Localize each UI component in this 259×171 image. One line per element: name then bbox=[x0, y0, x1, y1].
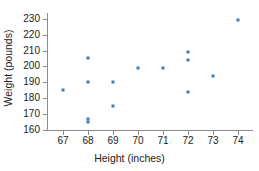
y-tick bbox=[43, 98, 47, 99]
data-point bbox=[87, 121, 90, 124]
data-point bbox=[87, 81, 90, 84]
scatter-plot-figure: 160170180190200210220230 676869707172737… bbox=[0, 0, 259, 171]
x-tick-label: 71 bbox=[152, 136, 174, 146]
x-tick-label: 67 bbox=[52, 136, 74, 146]
x-tick-label: 74 bbox=[227, 136, 249, 146]
y-tick-label: 200 bbox=[14, 61, 40, 71]
data-point bbox=[187, 59, 190, 62]
y-tick-label: 180 bbox=[14, 93, 40, 103]
data-point bbox=[187, 51, 190, 54]
x-tick-label: 68 bbox=[77, 136, 99, 146]
y-tick-label: 170 bbox=[14, 109, 40, 119]
y-tick-label: 160 bbox=[14, 125, 40, 135]
data-point bbox=[112, 105, 115, 108]
x-tick-label: 70 bbox=[127, 136, 149, 146]
y-tick bbox=[43, 19, 47, 20]
y-tick bbox=[43, 114, 47, 115]
y-axis-title: Weight (pounds) bbox=[2, 8, 14, 128]
x-axis-line bbox=[47, 130, 253, 131]
data-point bbox=[87, 57, 90, 60]
y-tick-label: 210 bbox=[14, 46, 40, 56]
plot-area bbox=[48, 14, 253, 130]
data-point bbox=[212, 74, 215, 77]
y-tick bbox=[43, 66, 47, 67]
data-point bbox=[62, 89, 65, 92]
x-tick-label: 73 bbox=[202, 136, 224, 146]
y-tick bbox=[43, 35, 47, 36]
y-tick-label: 190 bbox=[14, 77, 40, 87]
x-tick-label: 72 bbox=[177, 136, 199, 146]
y-tick bbox=[43, 51, 47, 52]
data-point bbox=[162, 67, 165, 70]
y-tick-label: 220 bbox=[14, 30, 40, 40]
y-tick bbox=[43, 82, 47, 83]
data-point bbox=[137, 67, 140, 70]
x-axis-title: Height (inches) bbox=[0, 152, 259, 164]
data-point bbox=[112, 81, 115, 84]
y-tick-label: 230 bbox=[14, 14, 40, 24]
data-point bbox=[237, 19, 240, 22]
y-tick bbox=[43, 130, 47, 131]
data-point bbox=[187, 90, 190, 93]
x-tick-label: 69 bbox=[102, 136, 124, 146]
